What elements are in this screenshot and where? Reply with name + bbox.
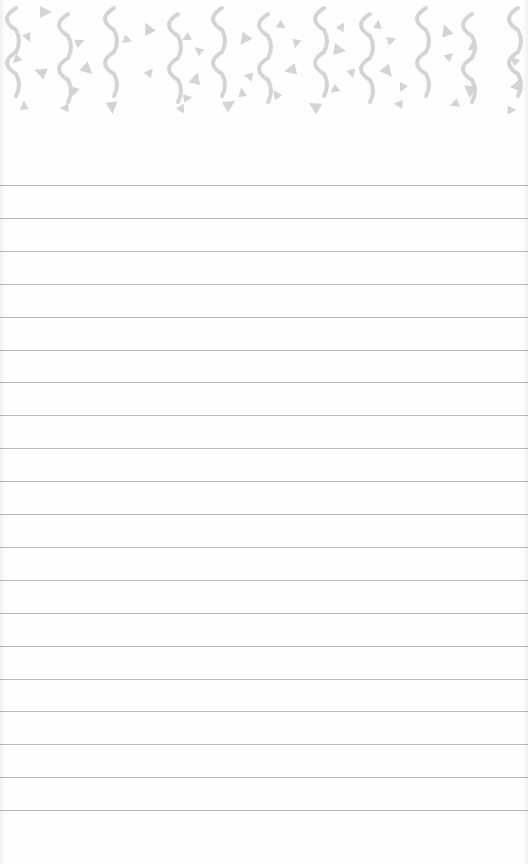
ruled-line — [0, 547, 528, 548]
ruled-line — [0, 514, 528, 515]
ruled-line — [0, 382, 528, 383]
ruled-line — [0, 481, 528, 482]
ruled-line — [0, 646, 528, 647]
ruled-line — [0, 251, 528, 252]
ruled-line — [0, 415, 528, 416]
ruled-line — [0, 580, 528, 581]
page-edge-left — [0, 0, 6, 864]
ruled-lines — [0, 0, 528, 864]
ruled-line — [0, 679, 528, 680]
ruled-line — [0, 810, 528, 811]
ruled-line — [0, 218, 528, 219]
ruled-line — [0, 711, 528, 712]
ruled-line — [0, 284, 528, 285]
page-edge-right — [522, 0, 528, 864]
ruled-line — [0, 350, 528, 351]
ruled-line — [0, 185, 528, 186]
notepad-page — [0, 0, 528, 864]
ruled-line — [0, 744, 528, 745]
ruled-line — [0, 613, 528, 614]
ruled-line — [0, 448, 528, 449]
ruled-line — [0, 777, 528, 778]
ruled-line — [0, 317, 528, 318]
